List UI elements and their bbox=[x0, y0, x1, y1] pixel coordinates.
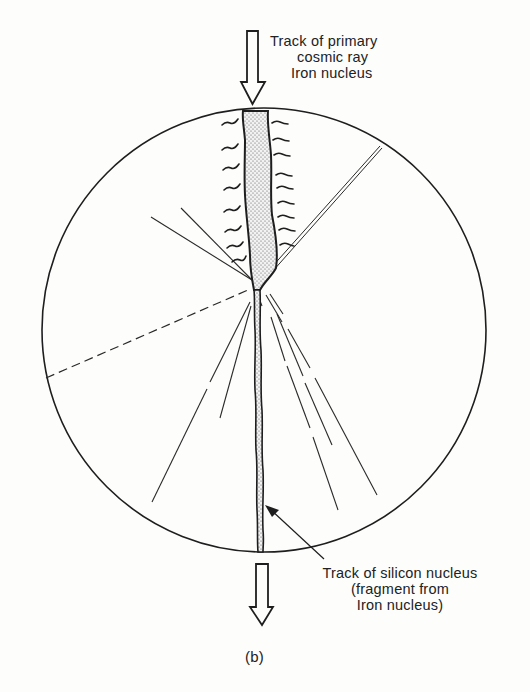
incoming-label-line-3: Iron nucleus bbox=[270, 65, 377, 81]
figure-caption: (b) bbox=[245, 649, 264, 665]
incoming-label-line-2: cosmic ray bbox=[270, 49, 377, 65]
primary-iron-track bbox=[243, 111, 277, 290]
fragment-tracks bbox=[46, 146, 382, 510]
silicon-pointer-arrow-icon bbox=[265, 505, 324, 559]
incoming-track-label: Track of primary cosmic ray Iron nucleus bbox=[270, 33, 377, 81]
silicon-label-line-1: Track of silicon nucleus bbox=[308, 565, 492, 581]
silicon-label-line-3: Iron nucleus) bbox=[308, 597, 492, 613]
silicon-fragment-track bbox=[254, 290, 263, 552]
incoming-label-line-1: Track of primary bbox=[270, 33, 377, 49]
silicon-label-line-2: (fragment from bbox=[308, 581, 492, 597]
outgoing-arrow-icon bbox=[250, 564, 273, 625]
incoming-arrow-icon bbox=[241, 31, 265, 104]
silicon-track-label: Track of silicon nucleus (fragment from … bbox=[308, 565, 492, 613]
